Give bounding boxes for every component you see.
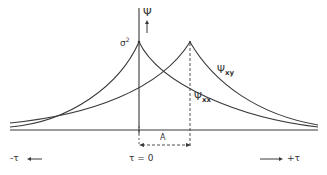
psi-arrow-head — [145, 20, 149, 24]
psi-xy-subscript: xy — [225, 69, 234, 77]
psi-xx-curve — [10, 42, 318, 127]
origin-label: τ = 0 — [129, 154, 153, 163]
neg-tau-label: -τ — [10, 154, 19, 163]
sigma-exponent: 2 — [126, 36, 130, 43]
psi-xx-subscript: xx — [202, 96, 211, 104]
shift-arrowhead-left — [139, 143, 144, 147]
psi-xy-symbol: Ψ — [217, 64, 225, 75]
sigma-squared-label: σ2 — [120, 37, 130, 48]
psi-xy-peak — [189, 41, 191, 43]
psi-xx-peak — [138, 41, 141, 44]
pos-tau-label: +τ — [287, 154, 300, 163]
correlation-diagram — [0, 0, 327, 175]
pos-tau-arrowhead — [279, 157, 283, 161]
neg-tau-arrowhead — [27, 157, 31, 161]
shift-label: A — [160, 134, 165, 142]
psi-xx-symbol: Ψ — [194, 91, 202, 102]
psi-xy-curve — [10, 42, 318, 125]
psi-axis-label: Ψ — [143, 7, 152, 18]
psi-xy-label: Ψxy — [217, 65, 234, 77]
psi-xx-label: Ψxx — [194, 92, 211, 104]
